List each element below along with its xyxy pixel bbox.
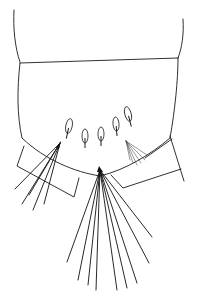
right-appendage [111, 136, 184, 188]
spine-1 [63, 118, 74, 139]
spine-2 [82, 129, 88, 148]
spine-5 [123, 106, 134, 127]
spines [63, 106, 134, 148]
spine-3 [98, 127, 104, 146]
specimen-illustration [0, 0, 201, 301]
upper-segment [14, 10, 184, 63]
lower-segment [18, 58, 178, 176]
central-seta-fan [67, 166, 152, 290]
spine-4 [112, 117, 120, 136]
